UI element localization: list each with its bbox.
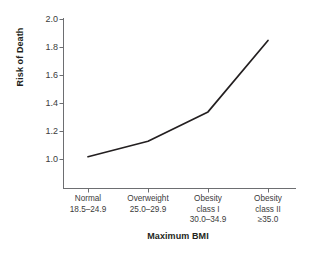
x-tick-label-overweight-line1: Overweight bbox=[117, 194, 179, 205]
x-tick-label-obesity-class-ii: Obesity class II ≥35.0 bbox=[237, 194, 299, 226]
chart-figure: Risk of Death 2.0 1.8 1.6 1.4 1.2 1.0 bbox=[0, 0, 311, 256]
x-tick-label-obesity-class-i: Obesity class I 30.0–34.9 bbox=[177, 194, 239, 226]
x-tick-label-normal-line2: 18.5–24.9 bbox=[57, 205, 119, 216]
x-tick-label-normal-line1: Normal bbox=[57, 194, 119, 205]
x-tick-label-obesity-class-ii-line3: ≥35.0 bbox=[237, 215, 299, 226]
x-tick-label-overweight: Overweight 25.0–29.9 bbox=[117, 194, 179, 215]
x-axis-title: Maximum BMI bbox=[60, 231, 296, 241]
x-tick-label-obesity-class-ii-line1: Obesity bbox=[237, 194, 299, 205]
x-tick-label-obesity-class-i-line2: class I bbox=[177, 205, 239, 216]
x-tick-marks bbox=[89, 189, 269, 193]
y-tick-marks bbox=[60, 20, 64, 160]
x-tick-label-normal: Normal 18.5–24.9 bbox=[57, 194, 119, 215]
x-tick-label-overweight-line2: 25.0–29.9 bbox=[117, 205, 179, 216]
risk-of-death-line bbox=[88, 41, 268, 157]
x-tick-label-obesity-class-i-line1: Obesity bbox=[177, 194, 239, 205]
x-tick-label-obesity-class-i-line3: 30.0–34.9 bbox=[177, 215, 239, 226]
x-tick-label-obesity-class-ii-line2: class II bbox=[237, 205, 299, 216]
